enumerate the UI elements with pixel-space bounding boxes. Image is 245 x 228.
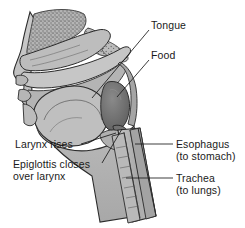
label-food: Food [151, 50, 175, 62]
label-trachea-subtext: (to lungs) [176, 185, 221, 197]
label-epiglottis-subtext: over larynx [13, 171, 90, 183]
label-trachea-text: Trachea [176, 172, 215, 184]
label-tongue-text: Tongue [151, 19, 186, 31]
label-larynx-text: Larynx rises [15, 138, 73, 150]
anatomy-figure: Tongue Food Larynx rises Epiglottis clos… [0, 0, 245, 228]
food-bolus [101, 81, 130, 130]
label-food-text: Food [151, 49, 175, 61]
label-esophagus-subtext: (to stomach) [176, 151, 236, 163]
label-esophagus-text: Esophagus [176, 138, 229, 150]
label-epiglottis-closes: Epiglottis closes over larynx [13, 159, 90, 182]
label-esophagus: Esophagus (to stomach) [176, 139, 236, 162]
label-trachea: Trachea (to lungs) [176, 173, 221, 196]
label-tongue: Tongue [151, 20, 186, 32]
label-epiglottis-text: Epiglottis closes [13, 158, 90, 170]
label-larynx-rises: Larynx rises [15, 139, 73, 151]
